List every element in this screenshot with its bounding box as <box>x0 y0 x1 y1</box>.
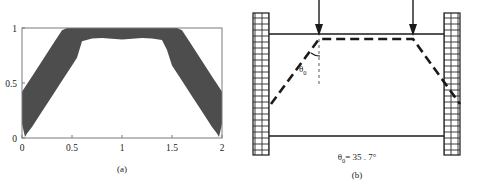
angle-label: θ0 <box>299 64 307 76</box>
figure-container: 00.511.52 00.51 (a) <box>0 0 483 195</box>
angle-label-subscript: 0 <box>303 69 306 76</box>
x-tick-label: 0 <box>20 143 25 153</box>
x-tick-label: 1 <box>120 143 125 153</box>
y-axis-tick-labels: 00.51 <box>5 24 17 144</box>
x-tick-label: 0.5 <box>66 143 78 153</box>
panel-b: θ0 θ0= 35 . 7° (b) <box>241 0 483 195</box>
panel-a: 00.511.52 00.51 (a) <box>0 0 241 195</box>
load-arrow-right <box>409 0 417 36</box>
angle-equation-value: = 35 . 7° <box>345 152 377 162</box>
panel-a-caption: (a) <box>117 164 127 174</box>
x-axis-tick-labels: 00.511.52 <box>20 143 225 153</box>
x-tick-label: 2 <box>220 143 225 153</box>
wall-left <box>253 13 269 155</box>
y-tick-label: 1 <box>12 24 17 34</box>
x-tick-label: 1.5 <box>166 143 178 153</box>
y-tick-label: 0.5 <box>5 79 17 89</box>
y-tick-label: 0 <box>12 134 17 144</box>
shaded-band <box>22 28 222 137</box>
diagram-b-svg: θ0 θ0= 35 . 7° (b) <box>241 0 483 195</box>
plot-a-svg: 00.511.52 00.51 (a) <box>0 0 241 195</box>
panel-b-caption: (b) <box>352 170 363 180</box>
angle-equation: θ0= 35 . 7° <box>338 152 377 164</box>
load-arrow-left <box>315 0 323 36</box>
